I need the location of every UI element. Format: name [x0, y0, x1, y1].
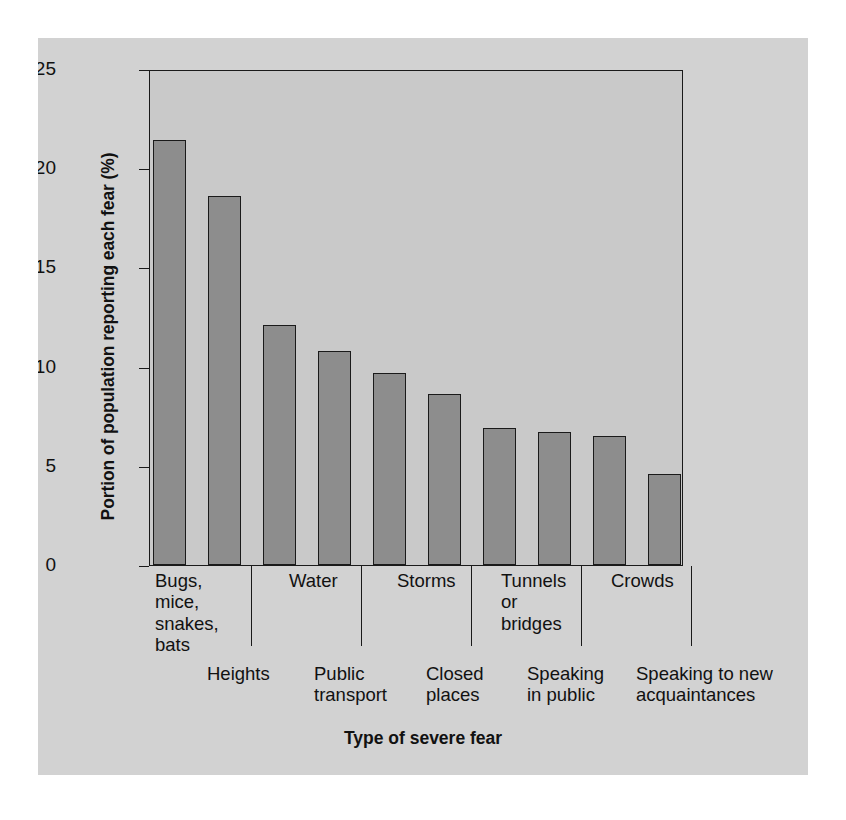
bar [648, 474, 681, 565]
plot-area [149, 70, 683, 566]
y-tick-label: 20 [38, 157, 56, 179]
y-tick-mark [139, 368, 149, 369]
category-separator [361, 566, 362, 646]
y-tick-mark [139, 70, 149, 71]
y-tick-mark [139, 566, 149, 567]
y-tick-mark [139, 467, 149, 468]
x-axis-title: Type of severe fear [38, 728, 808, 749]
x-tick-label: Tunnels or bridges [501, 570, 566, 634]
category-separator [471, 566, 472, 646]
x-tick-label: Closed places [426, 663, 536, 706]
bar [318, 351, 351, 565]
y-tick-label: 15 [38, 256, 56, 278]
y-tick-mark [139, 169, 149, 170]
x-tick-label: Crowds [611, 570, 674, 591]
category-separator [691, 566, 692, 646]
bar [538, 432, 571, 565]
figure-panel: Portion of population reporting each fea… [38, 38, 808, 775]
x-tick-label: Public transport [314, 663, 434, 706]
y-tick-label: 10 [38, 356, 56, 378]
x-tick-label: Storms [397, 570, 456, 591]
x-tick-label: Speaking to new acquaintances [636, 663, 808, 706]
y-tick-label: 25 [38, 58, 56, 80]
y-axis-title: Portion of population reporting each fea… [98, 87, 119, 587]
bar [373, 373, 406, 565]
y-tick-label: 5 [38, 455, 56, 477]
y-tick-label: 0 [38, 554, 56, 576]
bar [428, 394, 461, 565]
bar [208, 196, 241, 565]
category-separator [581, 566, 582, 646]
x-tick-label: Bugs, mice, snakes, bats [155, 570, 219, 656]
bar [593, 436, 626, 565]
bar [483, 428, 516, 565]
x-tick-label: Water [289, 570, 338, 591]
y-tick-mark [139, 268, 149, 269]
x-tick-label: Heights [207, 663, 317, 684]
category-separator [251, 566, 252, 646]
bar [263, 325, 296, 565]
bar [153, 140, 186, 565]
